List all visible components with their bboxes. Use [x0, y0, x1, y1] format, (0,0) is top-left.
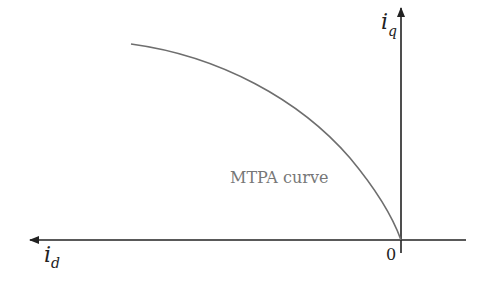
svg-text:d: d	[51, 255, 60, 271]
id-axis-label: i d	[44, 242, 60, 271]
curve-label: MTPA curve	[230, 168, 328, 187]
svg-text:i: i	[381, 9, 388, 34]
mtpa-diagram: MTPA curve 0 i d i q	[0, 0, 490, 281]
svg-text:i: i	[44, 242, 51, 267]
mtpa-curve	[131, 44, 401, 240]
svg-text:q: q	[388, 23, 397, 39]
iq-axis-label: i q	[381, 9, 397, 39]
origin-label: 0	[386, 245, 396, 264]
